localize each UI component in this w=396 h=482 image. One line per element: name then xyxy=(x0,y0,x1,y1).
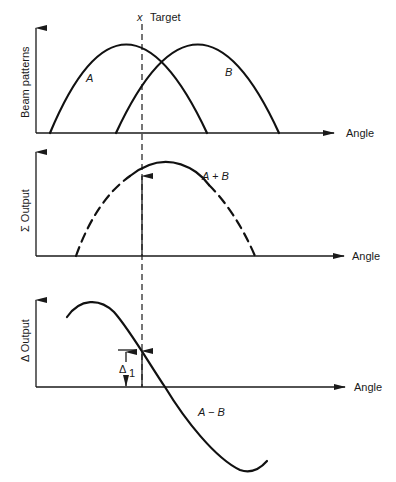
x-axis-label: Angle xyxy=(352,250,380,262)
target-marker: x xyxy=(136,11,143,23)
curve-sum-label: A + B xyxy=(201,170,229,182)
x-axis-label: Angle xyxy=(346,127,374,139)
delta-symbol: Δ xyxy=(119,363,127,375)
y-axis-label: Σ Output xyxy=(19,189,31,232)
y-axis-label: Δ Output xyxy=(19,319,31,362)
y-axis-label: Beam patterns xyxy=(19,46,31,118)
curve-a xyxy=(50,45,207,134)
curve-sum-right-dashed xyxy=(209,185,255,256)
panel-difference-output: Angle Δ Output A − B Δ 1 xyxy=(19,300,382,471)
curve-b xyxy=(116,45,279,134)
curve-difference-label: A − B xyxy=(197,406,225,418)
curve-a-label: A xyxy=(85,72,93,84)
panel-beam-patterns: Angle Beam patterns A B xyxy=(19,28,374,139)
monopulse-diagram: x Target Angle Beam patterns A B Angle Σ… xyxy=(0,0,396,482)
target-label: Target xyxy=(150,11,181,23)
curve-sum-left-dashed xyxy=(76,176,130,256)
x-axis-label: Angle xyxy=(354,381,382,393)
curve-b-label: B xyxy=(225,66,232,78)
panel-sum-output: Angle Σ Output A + B xyxy=(19,152,380,262)
delta-subscript: 1 xyxy=(129,367,135,379)
